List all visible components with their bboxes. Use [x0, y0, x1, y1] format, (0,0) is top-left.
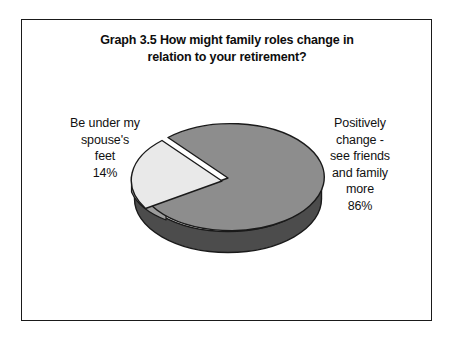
chart-plot-area: Be under my spouse's feet 14% Positively…	[22, 20, 433, 322]
pie-label-positively-change-line-1: Positively	[308, 115, 412, 132]
pie-label-positively-change-line-3: see friends	[308, 148, 412, 165]
pie-label-positively-change-line-5: more	[308, 181, 412, 198]
pie-label-positively-change-line-2: change -	[308, 132, 412, 149]
pie-label-spouse-feet: Be under my spouse's feet 14%	[47, 115, 163, 181]
pie-label-positively-change-line-4: and family	[308, 165, 412, 182]
slide-frame-border: Graph 3.5 How might family roles change …	[21, 19, 432, 321]
pie-label-spouse-feet-line-1: Be under my	[47, 115, 163, 132]
pie-label-spouse-feet-line-3: feet	[47, 148, 163, 165]
pie-label-spouse-feet-line-2: spouse's	[47, 132, 163, 149]
pie-label-positively-change: Positively change - see friends and fami…	[308, 115, 412, 214]
pie-label-positively-change-percent: 86%	[308, 198, 412, 215]
pie-label-spouse-feet-percent: 14%	[47, 165, 163, 182]
slide-canvas: Graph 3.5 How might family roles change …	[0, 0, 455, 339]
